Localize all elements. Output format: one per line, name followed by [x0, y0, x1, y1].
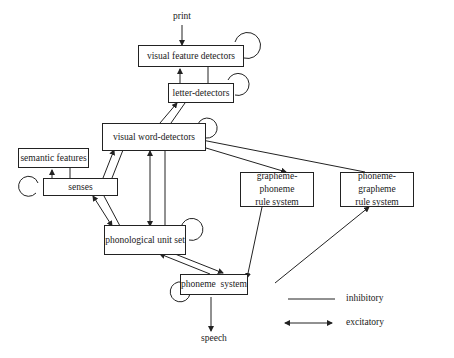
node-phoneme-system[interactable]: phoneme system	[180, 274, 248, 295]
legend-excitatory-label: excitatory	[346, 317, 384, 327]
output-label-speech: speech	[201, 333, 227, 343]
node-gp-line2: rule system	[255, 196, 299, 209]
edge-gp-to-phoneme	[247, 207, 262, 278]
node-phonological-unit-set[interactable]: phonological unit set	[104, 225, 186, 255]
node-pg-line2: rule system	[355, 196, 399, 209]
node-letter-detectors[interactable]: letter-detectors	[168, 83, 234, 103]
edge-senses-to-phon	[104, 196, 120, 226]
edge-phoneme-to-pg	[275, 207, 369, 283]
legend-inhibitory-label: inhibitory	[346, 293, 383, 303]
node-gp-line1: grapheme-phoneme	[241, 170, 313, 196]
edge-vwd-to-gp	[196, 145, 286, 172]
node-grapheme-phoneme-rule-system[interactable]: grapheme-phoneme rule system	[240, 172, 314, 207]
edge-vwd-to-senses	[112, 150, 123, 178]
node-senses[interactable]: senses	[43, 178, 118, 196]
node-phoneme-grapheme-rule-system[interactable]: phoneme-grapheme rule system	[340, 172, 414, 207]
edge-phon-to-phoneme	[175, 254, 223, 273]
edge-phon-senses-exc	[93, 196, 112, 226]
edge-phoneme-to-phon	[160, 254, 210, 274]
edge-letter-to-vwd	[171, 103, 185, 123]
node-visual-word-detectors[interactable]: visual word-detectors	[102, 123, 206, 151]
node-pg-line1: phoneme-grapheme	[341, 170, 413, 196]
node-visual-feature-detectors[interactable]: visual feature detectors	[138, 45, 244, 67]
node-semantic-features[interactable]: semantic features	[18, 148, 89, 168]
edge-vwd-to-pg	[202, 140, 365, 172]
edge-senses-to-vwd	[103, 150, 114, 178]
loop-senses	[19, 176, 38, 196]
input-label-print: print	[173, 11, 191, 21]
edge-vwd-to-letter	[160, 103, 177, 123]
